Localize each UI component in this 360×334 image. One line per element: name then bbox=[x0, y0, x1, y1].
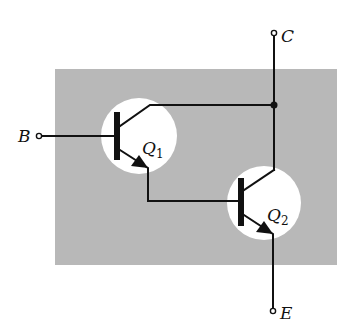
base-terminal[interactable] bbox=[36, 133, 41, 138]
q2-label-subscript: 2 bbox=[281, 214, 289, 228]
q1-label: Q bbox=[142, 138, 156, 158]
collector-terminal[interactable] bbox=[271, 30, 276, 35]
collector-label: C bbox=[281, 26, 294, 46]
junction-dot bbox=[271, 102, 278, 109]
emitter-terminal[interactable] bbox=[270, 308, 275, 313]
q1-label-subscript: 1 bbox=[156, 147, 164, 161]
q1-base-bar bbox=[114, 112, 120, 160]
base-label: B bbox=[17, 126, 31, 146]
q2-label: Q bbox=[267, 205, 281, 225]
emitter-label: E bbox=[279, 303, 293, 323]
q2-base-bar bbox=[238, 178, 244, 226]
package-background bbox=[55, 69, 337, 265]
darlington-circuit-diagram: B C E Q 1 Q 2 bbox=[0, 0, 360, 334]
